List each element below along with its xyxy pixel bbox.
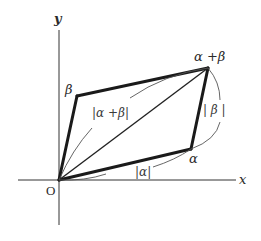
diagram-graphics [0, 0, 261, 241]
vector-beta [59, 96, 77, 180]
vertex-beta-label: β [65, 83, 73, 96]
arc-abs-beta-upper [208, 68, 220, 100]
vertex-alpha-plus-beta-label: α +β [194, 50, 225, 63]
y-axis-label: y [54, 12, 62, 25]
magnitude-alpha-label: |α| [135, 166, 151, 178]
magnitude-alpha-plus-beta-label: |α +β| [92, 107, 129, 119]
parallelogram-diagram: y x O β α +β α |α +β| | β | |α| [0, 0, 261, 241]
origin-label: O [46, 184, 55, 197]
vertex-alpha-label: α [189, 152, 198, 165]
magnitude-beta-label: | β | [203, 104, 226, 116]
x-axis-label: x [239, 173, 246, 186]
